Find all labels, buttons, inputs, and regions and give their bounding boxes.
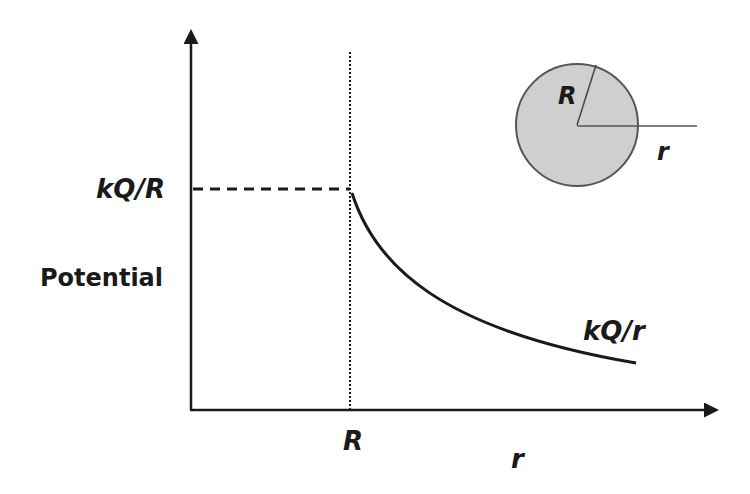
sphere-inset: R r	[516, 64, 697, 186]
x-axis-label: r	[511, 444, 526, 474]
curve-label: kQ/r	[583, 316, 647, 346]
sphere-radius-label: R	[558, 82, 576, 110]
potential-diagram: kQ/R Potential R r kQ/r R r	[0, 0, 750, 494]
distance-label: r	[657, 138, 671, 166]
y-axis-label: Potential	[40, 264, 163, 292]
x-tick-label: R	[343, 426, 363, 456]
y-tick-label: kQ/R	[96, 174, 165, 204]
